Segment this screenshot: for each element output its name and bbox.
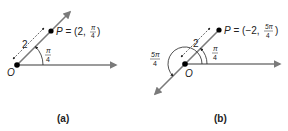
point-p	[48, 28, 53, 33]
distance-label: 2	[22, 39, 28, 50]
point-p-label-prefix: PP = (2, = (2,	[56, 26, 86, 37]
point-p-label-den: 4	[91, 32, 95, 39]
point-p-label-num: π	[91, 24, 96, 31]
point-p-label-suffix: )	[97, 26, 100, 37]
point-p	[216, 27, 221, 32]
angle-label-num: π	[46, 47, 51, 54]
origin-label: O	[185, 68, 193, 79]
distance-label: 2	[193, 38, 199, 49]
origin-label: O	[7, 67, 15, 78]
reflex-angle-label-num: 5π	[151, 51, 160, 58]
terminal-ray-5pi4	[155, 30, 219, 94]
panel-a: 2 π 4 O PP = (2, = (2, π 4 ) (a)	[7, 12, 116, 124]
point-p-label-den: 4	[266, 32, 270, 39]
caption-a: (a)	[57, 113, 69, 124]
angle-label-den: 4	[213, 54, 217, 61]
caption-b: (b)	[214, 113, 227, 124]
angle-label-den: 4	[46, 56, 50, 63]
point-p-label-suffix: )	[275, 25, 278, 36]
panel-b: 2 π 4 5π 4 O P = (−2, 5π 4 ) (b)	[150, 23, 280, 124]
angle-arc	[35, 47, 43, 65]
polar-coordinates-diagram: 2 π 4 O PP = (2, = (2, π 4 ) (a) 2 π 4 5	[0, 0, 288, 131]
reflex-angle-label-den: 4	[153, 60, 157, 67]
origin-point	[14, 62, 20, 68]
point-p-label-num: 5π	[265, 23, 274, 30]
angle-label-num: π	[213, 45, 218, 52]
point-p-label-prefix: P = (−2,	[224, 25, 260, 36]
origin-point	[182, 61, 188, 67]
